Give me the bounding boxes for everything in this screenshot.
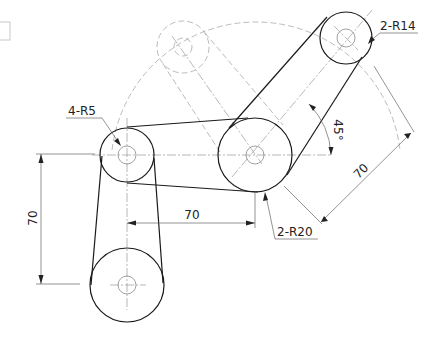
dim-line-diagonal [321,133,411,222]
pulley-top-right [320,12,372,64]
phantom-belt-left [163,64,220,152]
arrow-hole [114,138,121,146]
arrow-diag-bottom [321,216,328,222]
hole-radius-label: 4-R5 [68,104,96,118]
vertical-distance-label: 70 [26,210,40,225]
swing-arc [112,22,400,150]
arrow-left [127,221,136,226]
leader-hole-radius: 4-R5 [66,104,121,146]
belt-middle-top-upper [229,17,327,128]
belt-middle-top-lower [287,57,362,175]
dimension-vertical: 70 [26,154,95,284]
belt-left-bottom-outer [91,156,102,285]
arrow-right [246,221,255,226]
horizontal-distance-label: 70 [184,208,199,222]
arrow-up [39,154,44,163]
leader-small-pulley-radius: 2-R14 [368,19,418,44]
arrow-angle-bottom [329,147,334,155]
phantom-geometry [112,21,400,164]
diagonal-distance-label: 70 [351,161,372,182]
dimension-diagonal: 70 [284,66,414,224]
leader-large-pulley-radius: 2-R20 [263,192,318,239]
large-pulley-radius-label: 2-R20 [277,225,313,239]
leader-line-r20 [266,196,275,239]
pulley-drawing: 70 70 70 45° 4-R5 2-R14 [0,0,441,348]
belt-upper-left-middle [127,118,248,127]
dimension-horizontal: 70 [127,193,255,228]
phantom-pulley-hole [174,38,192,56]
belt-left-bottom-inner [154,158,163,283]
belts [91,17,362,285]
small-pulley-radius-label: 2-R14 [380,19,416,33]
ext-line-diag-bottom [284,186,322,224]
arrow-diag-top [404,133,411,139]
angle-label: 45° [331,119,345,140]
phantom-pulley [157,21,209,73]
arrow-angle-top [309,104,316,111]
arrow-down [39,275,44,284]
phantom-center-line [172,36,262,164]
arrow-r20 [263,192,268,201]
sheet-frame-corner [0,22,10,40]
pulley-top-right-center [334,26,358,50]
